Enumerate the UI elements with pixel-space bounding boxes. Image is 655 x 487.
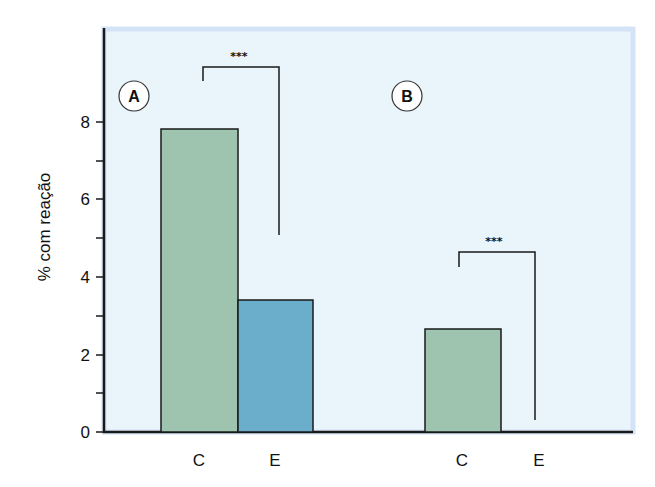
panel-label-a: A: [119, 81, 149, 111]
y-tick-label-6: 6: [81, 190, 90, 209]
chart-canvas: 0 2 4 6 8 % com reação *** *** A B C E C…: [0, 0, 655, 487]
category-label-b-e: E: [533, 451, 544, 470]
bar-a-control: [161, 129, 238, 432]
panel-letter-a: A: [128, 88, 140, 105]
y-axis-label: % com reação: [35, 173, 54, 282]
panel-letter-b: B: [401, 88, 413, 105]
category-label-b-c: C: [456, 451, 468, 470]
bar-a-exposed: [238, 300, 313, 432]
y-tick-label-4: 4: [81, 268, 90, 287]
y-tick-label-8: 8: [81, 113, 90, 132]
panel-label-b: B: [392, 81, 422, 111]
bar-b-control: [425, 329, 501, 432]
significance-stars-a: ***: [230, 50, 248, 63]
y-tick-label-2: 2: [81, 346, 90, 365]
y-tick-label-0: 0: [81, 423, 90, 442]
significance-stars-b: ***: [485, 235, 503, 248]
category-label-a-c: C: [193, 451, 205, 470]
category-label-a-e: E: [269, 451, 280, 470]
